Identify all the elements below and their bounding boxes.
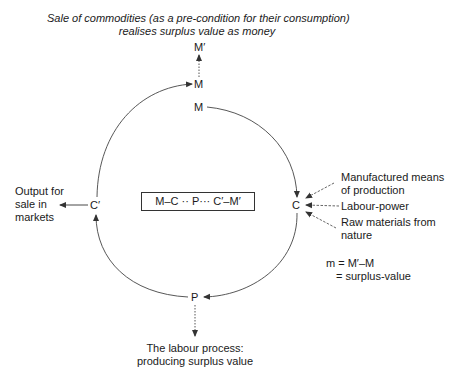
input-means-line-2: of production bbox=[341, 184, 405, 197]
node-m-prime: M′ bbox=[194, 41, 205, 53]
arc-p-to-c-prime bbox=[96, 215, 188, 297]
arc-c-to-p bbox=[204, 213, 297, 297]
node-p: P bbox=[191, 291, 198, 303]
labour-process-line-2: producing surplus value bbox=[115, 355, 275, 368]
input-raw-line-1: Raw materials from bbox=[341, 216, 436, 229]
arrow-means-to-c bbox=[306, 183, 334, 198]
output-line-1: Output for bbox=[15, 185, 64, 198]
input-labour: Labour-power bbox=[341, 200, 409, 213]
output-line-2: sale in bbox=[15, 198, 47, 211]
surplus-line-2: = surplus-value bbox=[336, 270, 411, 283]
input-means-line-1: Manufactured means bbox=[341, 171, 444, 184]
node-c-prime: C′ bbox=[90, 199, 100, 211]
node-m-top: M bbox=[194, 78, 203, 90]
arrow-labour-to-c bbox=[306, 205, 339, 206]
arc-m-to-c bbox=[207, 107, 297, 197]
arc-c-prime-to-m bbox=[97, 84, 192, 197]
node-c: C bbox=[292, 199, 300, 211]
title-line-2: realises surplus value as money bbox=[47, 25, 347, 38]
arrow-raw-to-c bbox=[306, 212, 336, 228]
formula-box: M–C ·· P··· C′–M′ bbox=[141, 192, 255, 211]
surplus-line-1: m = M′–M bbox=[326, 257, 374, 270]
labour-process-line-1: The labour process: bbox=[115, 342, 275, 355]
input-raw-line-2: nature bbox=[341, 229, 372, 242]
node-m-start: M bbox=[194, 101, 203, 113]
output-line-3: markets bbox=[15, 211, 54, 224]
title-line-1: Sale of commodities (as a pre-condition … bbox=[47, 12, 347, 25]
